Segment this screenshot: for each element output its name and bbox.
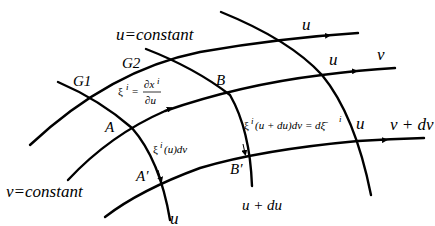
label-v-plus-dv: v + dv xyxy=(390,115,434,134)
label-u-constant: u=constant xyxy=(116,25,195,44)
label-u-mid: u xyxy=(329,50,338,69)
label-point-b-prime: B′ xyxy=(230,161,243,177)
coordinate-grid-diagram: u=constant v=constant G1 G2 A B A′ B′ u … xyxy=(0,0,435,226)
svg-text:i: i xyxy=(160,140,163,150)
equation-xi-u-dv: ξ i (u)dv xyxy=(153,140,187,156)
diagram-svg: u=constant v=constant G1 G2 A B A′ B′ u … xyxy=(0,0,435,226)
svg-text:(u + du)dv = dξ̄: (u + du)dv = dξ̄ xyxy=(255,119,328,132)
label-g1: G1 xyxy=(73,73,91,89)
svg-text:i: i xyxy=(251,116,254,126)
label-point-b: B xyxy=(216,72,225,88)
label-v: v xyxy=(377,45,385,64)
label-u-bottom: u xyxy=(170,209,179,226)
svg-text:ξ: ξ xyxy=(153,143,158,156)
svg-text:=: = xyxy=(132,85,138,97)
arrow-icon xyxy=(375,140,385,141)
arrow-icon xyxy=(243,144,245,153)
svg-text:i: i xyxy=(126,82,129,92)
label-v-constant: v=constant xyxy=(6,182,84,201)
svg-text:ξ: ξ xyxy=(244,119,249,132)
label-u-top: u xyxy=(302,15,311,34)
svg-text:∂x: ∂x xyxy=(144,78,154,90)
equation-xi-definition: ξ i = ∂x i ∂u xyxy=(118,76,161,106)
svg-text:ξ: ξ xyxy=(118,85,123,98)
label-point-a: A xyxy=(104,119,115,135)
svg-text:i: i xyxy=(339,114,342,124)
label-u-plus-du: u + du xyxy=(242,197,282,213)
label-g2: G2 xyxy=(122,55,141,71)
svg-text:∂u: ∂u xyxy=(145,94,156,106)
svg-text:i: i xyxy=(157,76,160,86)
label-u-right: u xyxy=(356,114,365,133)
equation-xi-u-du-dv: ξ i (u + du)dv = dξ̄ i xyxy=(244,114,342,132)
label-point-a-prime: A′ xyxy=(135,168,149,184)
svg-text:(u)dv: (u)dv xyxy=(164,143,187,156)
